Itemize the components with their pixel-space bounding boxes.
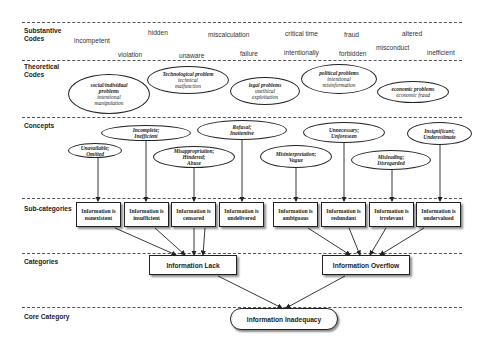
concept-incomplete-inefficient: Incomplete; Inefficient (101, 125, 191, 141)
concept-line: Disregarded (377, 160, 404, 166)
subcategory-line: Information is (220, 208, 263, 215)
subcategory-line: Information is (370, 208, 413, 215)
concept-line: Inefficient (134, 133, 157, 139)
category-information-lack: Information Lack (149, 255, 237, 275)
concept-misinterpretation-vague: Misinterpretation; Vague (260, 145, 332, 168)
concept-line: Abuse (187, 160, 201, 166)
subcategory-line: Information is (274, 208, 317, 215)
subcategory-line: undervalued (417, 215, 460, 222)
subcategory-line: Information is (172, 208, 215, 215)
core-category-label: Information Inadequacy (247, 316, 321, 323)
concept-line: Vague (289, 157, 303, 163)
subcategory-redundant: Information is redundant (321, 202, 366, 227)
subcategory-nonexistent: Information is nonexistent (76, 202, 121, 227)
subcategory-line: censored (172, 215, 215, 222)
subcategory-line: irrelevant (370, 215, 413, 222)
concept-unavailable-omitted: Unavailable; Omitted (68, 143, 122, 158)
subcategory-line: redundant (322, 215, 365, 222)
concept-misleading-disregarded: Misleading; Disregarded (351, 150, 431, 170)
core-category-information-inadequacy: Information Inadequacy (230, 308, 338, 330)
subcategory-line: undelivered (220, 215, 263, 222)
connector-lines (0, 0, 487, 350)
subcategory-line: nonexistent (77, 215, 120, 222)
subcategory-line: Information is (322, 208, 365, 215)
subcategory-undelivered: Information is undelivered (219, 202, 264, 227)
subcategory-undervalued: Information is undervalued (416, 202, 461, 227)
concept-line: Omitted (86, 151, 104, 157)
subcategory-ambiguous: Information is ambiguous (273, 202, 318, 227)
subcategory-irrelevant: Information is irrelevant (369, 202, 414, 227)
concept-misappropriation-hindered-abuse: Misappropriation; Hindered; Abuse (153, 146, 235, 168)
concept-line: Underestimate (423, 134, 455, 140)
subcategory-censored: Information is censored (171, 202, 216, 227)
concept-insignificant-underestimate: Insignificant; Underestimate (407, 122, 472, 145)
category-label: Information Lack (166, 262, 219, 269)
subcategory-line: ambiguous (274, 215, 317, 222)
concept-unnecessary-unforeseen: Unnecessary; Unforeseen (303, 122, 385, 143)
concept-line: Unforeseen (331, 133, 357, 139)
subcategory-line: insufficient (125, 215, 168, 222)
subcategory-line: Information is (417, 208, 460, 215)
subcategory-line: Information is (125, 208, 168, 215)
category-information-overflow: Information Overflow (322, 255, 410, 275)
subcategory-insufficient: Information is insufficient (124, 202, 169, 227)
category-label: Information Overflow (333, 262, 399, 269)
concept-refusal-inattentive: Refusal; Inattentive (197, 120, 287, 140)
concept-line: Inattentive (230, 130, 254, 136)
subcategory-line: Information is (77, 208, 120, 215)
